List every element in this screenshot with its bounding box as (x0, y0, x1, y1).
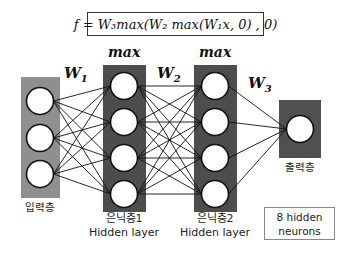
edge-input-hidden1 (54, 174, 111, 194)
hidden-layer-1-label-en: Hidden layer (84, 226, 164, 240)
hidden2-neuron-1 (202, 73, 229, 100)
formula-text: f = W₃max(W₂ max(W₁x, 0) , 0) (74, 17, 277, 32)
connection-edges (54, 86, 287, 194)
hidden-neurons-note: 8 hidden neurons (264, 207, 335, 240)
hidden-layer-1-label: 은닉층1 Hidden layer (84, 212, 164, 240)
hidden-layer-2-label-ko: 은닉층2 (175, 212, 255, 226)
hidden-layer-2-label: 은닉층2 Hidden layer (175, 212, 255, 240)
hidden1-neuron-3 (111, 145, 138, 172)
note-line-2: neurons (265, 224, 334, 238)
hidden-layer-2-label-en: Hidden layer (175, 226, 255, 240)
input-neuron-3 (27, 161, 54, 188)
hidden1-neuron-4 (111, 181, 138, 208)
hidden-layer-1-label-ko: 은닉층1 (84, 212, 164, 226)
hidden1-neuron-2 (111, 109, 138, 136)
input-layer-label: 입력층 (14, 199, 66, 214)
hidden2-neuron-3 (202, 145, 229, 172)
input-neuron-1 (27, 88, 54, 115)
output-layer-label: 출력층 (274, 159, 326, 174)
hidden2-neuron-4 (202, 181, 229, 208)
note-line-1: 8 hidden (265, 210, 334, 224)
weight-label-w3: W3 (248, 74, 272, 94)
hidden1-activation-label: max (108, 44, 140, 60)
input-neuron-2 (27, 125, 54, 152)
output-neuron-1 (287, 116, 314, 143)
hidden1-neuron-1 (111, 73, 138, 100)
formula-box: f = W₃max(W₂ max(W₁x, 0) , 0) (87, 12, 264, 36)
weight-label-w2: W2 (157, 64, 181, 84)
edge-hidden2-output (229, 129, 287, 158)
hidden2-neuron-2 (202, 109, 229, 136)
hidden2-activation-label: max (199, 44, 231, 60)
weight-label-w1: W1 (64, 64, 88, 84)
